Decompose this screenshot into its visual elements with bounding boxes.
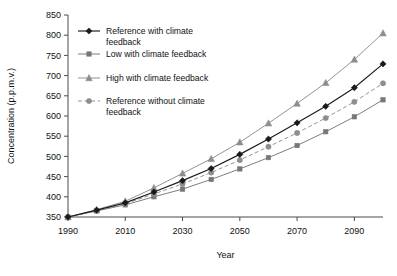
data-point-square <box>352 115 356 119</box>
series-line-0 <box>68 64 383 217</box>
series-line-2 <box>68 33 383 217</box>
data-point-square <box>295 143 299 147</box>
triangle-marker <box>380 30 386 36</box>
concentration-line-chart: 3504004505005506006507007508008501990201… <box>0 0 397 276</box>
chart-figure: 3504004505005506006507007508008501990201… <box>0 0 397 276</box>
square-marker <box>352 115 356 119</box>
triangle-marker <box>179 170 185 176</box>
data-point-square <box>180 187 184 191</box>
series-line-1 <box>68 100 383 217</box>
circle-marker <box>352 99 357 104</box>
data-point-diamond <box>86 28 92 34</box>
data-point-square <box>238 167 242 171</box>
data-point-circle <box>294 130 299 135</box>
data-point-triangle <box>208 155 214 161</box>
data-point-square <box>87 52 91 56</box>
data-point-square <box>266 155 270 159</box>
circle-marker <box>380 81 385 86</box>
legend-label-cont-3: feedback <box>106 107 142 117</box>
triangle-marker <box>294 100 300 106</box>
triangle-marker <box>208 155 214 161</box>
data-point-square <box>209 177 213 181</box>
legend-item-2: High with climate feedback <box>78 73 209 83</box>
y-tick-label: 400 <box>46 192 61 202</box>
y-tick-label: 500 <box>46 152 61 162</box>
data-point-diamond <box>237 151 243 157</box>
x-tick-label: 2070 <box>287 226 307 236</box>
data-point-square <box>324 130 328 134</box>
data-point-diamond <box>323 103 329 109</box>
diamond-marker <box>323 103 329 109</box>
x-tick-label: 2010 <box>115 226 135 236</box>
y-tick-label: 600 <box>46 111 61 121</box>
x-axis-title: Year <box>216 250 234 260</box>
square-marker <box>295 143 299 147</box>
square-marker <box>381 98 385 102</box>
y-tick-label: 850 <box>46 10 61 20</box>
legend-item-0: Reference with climatefeedback <box>78 26 193 47</box>
data-point-diamond <box>265 136 271 142</box>
data-point-triangle <box>237 139 243 145</box>
triangle-marker <box>265 120 271 126</box>
y-tick-label: 750 <box>46 51 61 61</box>
y-tick-label: 550 <box>46 131 61 141</box>
data-point-circle <box>380 81 385 86</box>
legend-label-3: Reference without climate <box>106 96 205 106</box>
square-marker <box>324 130 328 134</box>
legend-item-3: Reference without climatefeedback <box>78 96 205 117</box>
data-point-circle <box>266 144 271 149</box>
data-point-circle <box>352 99 357 104</box>
legend-label-2: High with climate feedback <box>106 73 209 83</box>
square-marker <box>238 167 242 171</box>
y-tick-label: 450 <box>46 172 61 182</box>
legend-item-1: Low with climate feedback <box>78 49 207 59</box>
y-tick-label: 800 <box>46 30 61 40</box>
data-point-square <box>381 98 385 102</box>
y-tick-label: 650 <box>46 91 61 101</box>
circle-marker <box>266 144 271 149</box>
x-tick-label: 2090 <box>344 226 364 236</box>
circle-marker <box>323 115 328 120</box>
square-marker <box>87 52 91 56</box>
y-axis-title: Concentration (p.p.m.v.) <box>6 68 16 164</box>
circle-marker <box>294 130 299 135</box>
data-point-triangle <box>380 30 386 36</box>
square-marker <box>180 187 184 191</box>
circle-marker <box>86 98 91 103</box>
legend-label-0: Reference with climate <box>106 26 193 36</box>
data-point-triangle <box>179 170 185 176</box>
legend-label-1: Low with climate feedback <box>106 49 207 59</box>
data-point-triangle <box>265 120 271 126</box>
diamond-marker <box>294 120 300 126</box>
triangle-marker <box>237 139 243 145</box>
data-point-circle <box>323 115 328 120</box>
data-point-circle <box>86 98 91 103</box>
data-point-diamond <box>294 120 300 126</box>
data-point-triangle <box>294 100 300 106</box>
square-marker <box>209 177 213 181</box>
data-point-circle <box>237 157 242 162</box>
diamond-marker <box>237 151 243 157</box>
triangle-marker <box>322 79 328 85</box>
diamond-marker <box>86 28 92 34</box>
legend-label-cont-0: feedback <box>106 37 142 47</box>
circle-marker <box>237 157 242 162</box>
diamond-marker <box>265 136 271 142</box>
x-tick-label: 1990 <box>58 226 78 236</box>
x-tick-label: 2050 <box>230 226 250 236</box>
data-point-triangle <box>322 79 328 85</box>
y-tick-label: 700 <box>46 71 61 81</box>
x-tick-label: 2030 <box>173 226 193 236</box>
square-marker <box>266 155 270 159</box>
y-tick-label: 350 <box>46 212 61 222</box>
